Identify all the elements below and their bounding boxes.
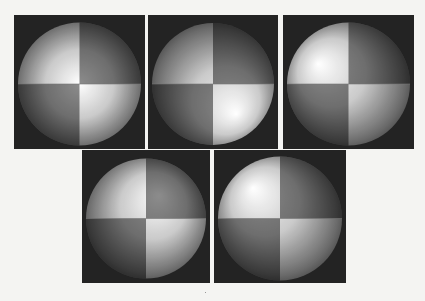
- quadrant-bottom-right-light: [349, 84, 415, 149]
- scan-speck: [205, 292, 206, 293]
- sphere-panel-lower-right-light: [148, 15, 278, 149]
- quadrant-top-left-light: [148, 15, 213, 84]
- sphere-render: [214, 150, 346, 283]
- sphere-render: [14, 15, 145, 149]
- sphere-render: [283, 15, 414, 149]
- quadrant-top-left-light: [214, 150, 280, 219]
- sphere-render: [82, 150, 210, 283]
- sphere-panel-upper-right-light: [82, 150, 210, 283]
- sphere-panel-upper-left-light-2: [214, 150, 346, 283]
- quadrant-bottom-left-dark: [82, 219, 146, 284]
- quadrant-top-right-dark: [146, 150, 210, 219]
- quadrant-top-left-light: [14, 15, 80, 84]
- sphere-panel-upper-left-light: [283, 15, 414, 149]
- quadrant-bottom-right-light: [213, 84, 278, 149]
- quadrant-bottom-right-light: [280, 219, 346, 284]
- quadrant-bottom-right-light: [146, 219, 210, 284]
- quadrant-top-right-dark: [280, 150, 346, 219]
- quadrant-bottom-left-dark: [14, 84, 80, 149]
- quadrant-top-right-dark: [80, 15, 146, 84]
- quadrant-top-left-light: [283, 15, 349, 84]
- sphere-panel-front-light: [14, 15, 145, 149]
- quadrant-top-right-dark: [349, 15, 415, 84]
- quadrant-bottom-left-dark: [283, 84, 349, 149]
- sphere-render: [148, 15, 278, 149]
- quadrant-bottom-left-dark: [148, 84, 213, 149]
- quadrant-bottom-right-light: [80, 84, 146, 149]
- quadrant-top-right-dark: [213, 15, 278, 84]
- quadrant-bottom-left-dark: [214, 219, 280, 284]
- quadrant-top-left-light: [82, 150, 146, 219]
